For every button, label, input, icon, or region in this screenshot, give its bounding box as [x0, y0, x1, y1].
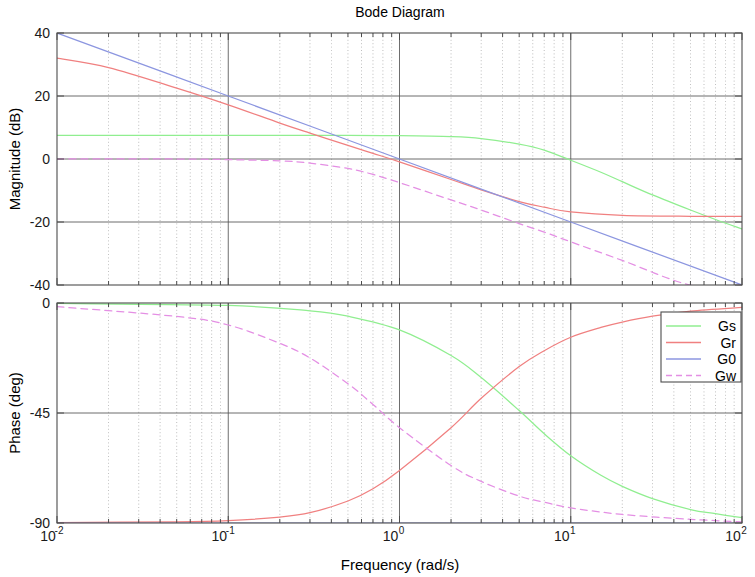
bode-plot-canvas: Bode Diagram 40200-20-40 Magnitude (dB) …	[0, 0, 755, 577]
ytick-label: -40	[30, 277, 50, 293]
legend[interactable]: GsGrG0Gw	[661, 312, 741, 384]
bode-figure: Bode Diagram 40200-20-40 Magnitude (dB) …	[0, 0, 755, 577]
ytick-label: 20	[34, 88, 50, 104]
magnitude-axis-label: Magnitude (dB)	[6, 108, 23, 211]
phase-axis-label: Phase (deg)	[6, 372, 23, 454]
figure-background	[0, 0, 755, 577]
frequency-axis-label: Frequency (rad/s)	[341, 556, 459, 573]
legend-label-Gr: Gr	[720, 335, 736, 351]
svg-text:-1: -1	[226, 525, 235, 536]
svg-text:1: 1	[570, 525, 576, 536]
svg-text:10: 10	[554, 528, 570, 544]
svg-text:2: 2	[741, 525, 747, 536]
svg-text:0: 0	[399, 525, 405, 536]
svg-text:10: 10	[725, 528, 741, 544]
ytick-label: -20	[30, 214, 50, 230]
ytick-label: -45	[30, 405, 50, 421]
legend-label-Gw: Gw	[715, 368, 737, 384]
ytick-label: 40	[34, 25, 50, 41]
svg-text:-2: -2	[55, 525, 64, 536]
svg-text:10: 10	[383, 528, 399, 544]
legend-label-Gs: Gs	[718, 318, 736, 334]
ytick-label: 0	[42, 151, 50, 167]
legend-label-G0: G0	[717, 351, 736, 367]
figure-title: Bode Diagram	[355, 4, 445, 20]
ytick-label: 0	[42, 295, 50, 311]
